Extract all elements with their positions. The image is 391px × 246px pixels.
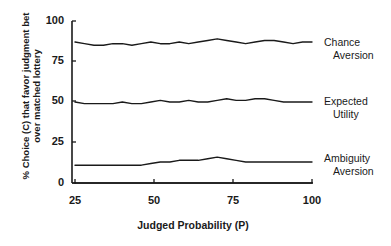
x-tick-label-25: 25 [60,194,90,206]
series-label-expected-line2: Utility [324,108,368,121]
chart-axes [72,21,313,183]
series-label-expected-utility: Expected Utility [324,95,368,120]
series-label-ambiguity-aversion: Ambiguity Aversion [324,152,374,177]
x-tick-label-100: 100 [297,194,327,206]
series-line-chance-aversion [75,39,312,45]
x-axis-label: Judged Probability (P) [72,219,314,231]
chart-series-lines [75,39,312,183]
y-axis-label: % Choice (C) that favor judgment bet ove… [20,6,42,186]
series-line-expected-utility [75,99,312,104]
series-label-chance-line2: Aversion [324,49,374,62]
series-label-ambiguity-line2: Aversion [324,165,374,178]
series-label-chance-line1: Chance [324,36,360,48]
series-label-chance-aversion: Chance Aversion [324,36,374,61]
series-label-expected-line1: Expected [324,95,368,107]
series-label-ambiguity-line1: Ambiguity [324,152,370,164]
chart-figure: 100 75 50 25 0 25 50 75 100 % Choice (C)… [0,0,391,246]
series-line-ambiguity-aversion [75,157,312,165]
x-tick-label-50: 50 [139,194,169,206]
x-tick-label-75: 75 [218,194,248,206]
